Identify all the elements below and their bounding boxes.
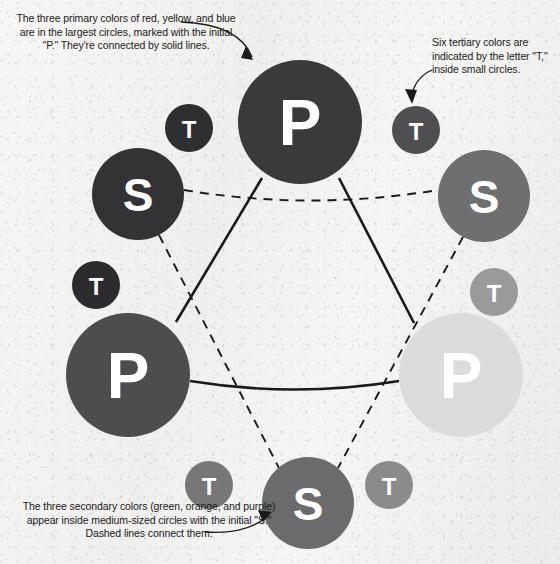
primary-connection-lines: [176, 178, 414, 390]
annotation-secondary-colors: The three secondary colors (green, orang…: [8, 500, 290, 541]
node-tertiary-2[interactable]: T: [392, 106, 440, 154]
line-blue-to-red: [176, 178, 262, 322]
arrow-primary-head: [241, 46, 253, 60]
node-tertiary-1[interactable]: T: [165, 104, 213, 152]
primary-yellow-label: P: [440, 340, 483, 412]
tertiary-6-label: T: [382, 473, 397, 500]
primary-nodes: P P P: [66, 60, 523, 437]
line-purple-to-green: [184, 190, 438, 201]
tertiary-5-label: T: [202, 473, 217, 500]
node-secondary-purple[interactable]: S: [92, 148, 184, 240]
tertiary-2-label: T: [409, 118, 424, 145]
primary-blue-label: P: [279, 87, 322, 159]
node-tertiary-4[interactable]: T: [470, 268, 518, 316]
primary-red-label: P: [107, 340, 150, 412]
color-wheel-diagram: T T T T T T: [0, 0, 560, 564]
line-red-to-yellow: [190, 381, 399, 390]
secondary-connection-lines: [159, 190, 463, 468]
secondary-green-label: S: [469, 171, 500, 223]
annotation-tertiary-colors: Six tertiary colors are indicated by the…: [432, 36, 556, 77]
node-tertiary-3[interactable]: T: [72, 261, 120, 309]
wheel-graphics: T T T T T T: [0, 0, 560, 564]
node-primary-red[interactable]: P: [66, 313, 190, 437]
arrow-tertiary-head: [405, 89, 417, 104]
tertiary-4-label: T: [487, 280, 502, 307]
node-tertiary-6[interactable]: T: [365, 461, 413, 509]
tertiary-1-label: T: [182, 116, 197, 143]
annotation-primary-colors: The three primary colors of red, yellow,…: [14, 12, 238, 53]
node-secondary-green[interactable]: S: [438, 150, 530, 242]
tertiary-3-label: T: [89, 273, 104, 300]
node-primary-yellow[interactable]: P: [399, 313, 523, 437]
secondary-orange-label: S: [293, 478, 324, 530]
secondary-purple-label: S: [123, 169, 154, 221]
node-primary-blue[interactable]: P: [238, 60, 362, 184]
